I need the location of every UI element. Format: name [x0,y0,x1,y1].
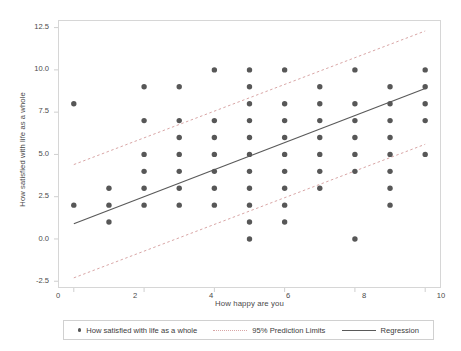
data-point [247,236,252,241]
data-point [141,84,146,89]
data-point [387,152,392,157]
scatter-marker-icon [78,328,81,331]
data-point [141,118,146,123]
data-point [422,84,427,89]
solid-line-icon [342,330,376,331]
data-point [352,118,357,123]
dotted-line-icon [213,330,247,331]
data-point [177,152,182,157]
data-point [352,236,357,241]
data-point [317,152,322,157]
data-point [282,135,287,140]
data-point [387,118,392,123]
data-point [387,169,392,174]
data-point [352,101,357,106]
data-point [141,169,146,174]
data-point [106,186,111,191]
data-point [177,84,182,89]
data-point [282,202,287,207]
data-point [317,169,322,174]
data-point [247,152,252,157]
x-axis-title: How happy are you [58,299,441,308]
data-point [141,186,146,191]
legend-item-scatter[interactable]: How satisfied with life as a whole [78,326,197,335]
data-point-markers [71,67,428,241]
data-point [212,118,217,123]
data-point [247,118,252,123]
data-point [317,101,322,106]
data-point [387,202,392,207]
data-point [212,169,217,174]
legend-label-regression: Regression [381,326,419,335]
data-point [71,101,76,106]
data-point [422,118,427,123]
data-point [71,202,76,207]
data-point [247,202,252,207]
data-point [212,202,217,207]
data-point [387,186,392,191]
data-point [387,135,392,140]
data-point [177,169,182,174]
data-point [212,152,217,157]
data-point [422,152,427,157]
data-point [247,169,252,174]
data-point [106,202,111,207]
data-point [317,135,322,140]
data-point [247,135,252,140]
data-point [317,186,322,191]
data-point [422,101,427,106]
data-point [282,186,287,191]
data-point [387,101,392,106]
data-point [212,135,217,140]
data-point [247,67,252,72]
data-point [317,118,322,123]
data-point [177,186,182,191]
legend-label-prediction-limits: 95% Prediction Limits [252,326,325,335]
data-point [352,67,357,72]
data-point [141,152,146,157]
data-point [282,67,287,72]
data-point [247,84,252,89]
data-point [177,202,182,207]
legend-label-scatter: How satisfied with life as a whole [86,326,197,335]
data-point [282,101,287,106]
data-point [212,67,217,72]
legend-item-prediction-limits[interactable]: 95% Prediction Limits [213,326,325,335]
data-point [177,135,182,140]
data-point [177,118,182,123]
data-point [352,169,357,174]
data-point [282,152,287,157]
chart-legend: How satisfied with life as a whole 95% P… [63,320,434,340]
data-point [106,219,111,224]
data-point [352,152,357,157]
data-point [247,219,252,224]
data-point [422,67,427,72]
data-point [247,186,252,191]
data-point [141,202,146,207]
data-point [282,219,287,224]
data-point [387,84,392,89]
data-point [212,186,217,191]
data-point [317,84,322,89]
scatter-plot-figure: How satisfied with life as a whole 12.5 … [0,0,461,351]
data-point [352,135,357,140]
legend-item-regression[interactable]: Regression [342,326,419,335]
data-point [247,101,252,106]
data-point [282,118,287,123]
data-point [282,169,287,174]
